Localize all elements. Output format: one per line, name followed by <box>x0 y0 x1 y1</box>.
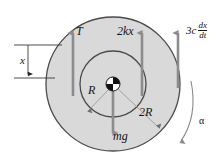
weight-label: mg <box>113 130 128 142</box>
derivative-numerator: dx <box>197 21 208 30</box>
spring-force-label: 2kx <box>117 25 134 37</box>
derivative-denominator: dt <box>198 30 207 40</box>
inner-radius-label: R <box>88 84 95 96</box>
outer-radius-label: 2R <box>139 106 152 118</box>
displacement-label: x <box>20 55 25 66</box>
angular-acceleration-arc <box>181 81 193 141</box>
tension-label: T <box>76 25 83 37</box>
mechanics-figure: T 2kx mg R 2R x α 3c dx dt <box>0 0 224 159</box>
angular-acceleration-label: α <box>199 116 204 126</box>
derivative-fraction: dx dt <box>197 21 208 40</box>
damping-coefficient-text: 3c <box>186 25 196 36</box>
damping-force-label: 3c dx dt <box>186 21 208 40</box>
